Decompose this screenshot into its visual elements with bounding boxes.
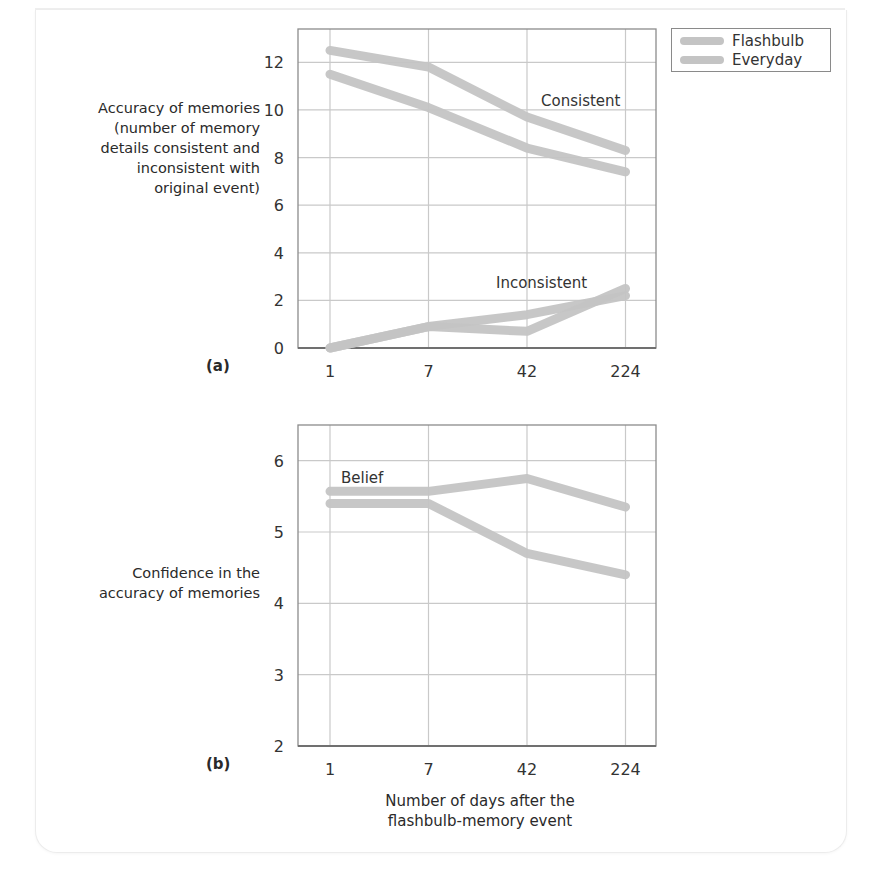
x-axis-label: Number of days after the flashbulb-memor…	[330, 791, 630, 831]
chart-b-y-tick-label: 5	[274, 523, 284, 542]
chart-a-x-tick-label: 7	[423, 362, 433, 381]
chart-a-y-axis-label-line-2: (number of memory	[40, 118, 260, 138]
chart-a-y-axis-label-line-1: Accuracy of memories	[40, 98, 260, 118]
legend-label-flashbulb: Flashbulb	[732, 32, 804, 50]
legend-label-everyday: Everyday	[732, 51, 802, 69]
chart-a-y-axis-label-line-4: inconsistent with	[40, 158, 260, 178]
chart-b-x-tick-label: 224	[610, 760, 641, 779]
legend-swatch-everyday	[680, 56, 724, 64]
annotation-belief: Belief	[341, 469, 384, 487]
x-axis-label-line-1: Number of days after the	[330, 791, 630, 811]
chart-b-x-tick-label: 1	[325, 760, 335, 779]
legend-swatch-flashbulb	[680, 37, 724, 45]
chart-b-series-line-2	[330, 503, 626, 574]
chart-a-y-tick-label: 8	[274, 149, 284, 168]
chart-b-y-axis-label: Confidence in theaccuracy of memories	[40, 563, 260, 603]
chart-a-x-tick-label: 1	[325, 362, 335, 381]
chart-b-x-tick-label: 42	[517, 760, 537, 779]
legend: Flashbulb Everyday	[671, 28, 831, 72]
annotation-consistent: Consistent	[541, 92, 621, 110]
chart-b-y-tick-label: 2	[274, 737, 284, 756]
annotation-inconsistent: Inconsistent	[496, 274, 587, 292]
chart-a-y-tick-label: 10	[264, 101, 284, 120]
chart-a-y-tick-label: 12	[264, 53, 284, 72]
chart-a-y-tick-label: 2	[274, 291, 284, 310]
legend-item-everyday: Everyday	[680, 50, 802, 70]
x-axis-label-line-2: flashbulb-memory event	[330, 811, 630, 831]
panel-b-tag: (b)	[206, 755, 230, 773]
chart-a-x-tick-label: 224	[610, 362, 641, 381]
legend-item-flashbulb: Flashbulb	[680, 31, 804, 51]
chart-b-y-tick-label: 6	[274, 452, 284, 471]
chart-b-x-tick-label: 7	[423, 760, 433, 779]
chart-a-y-tick-label: 4	[274, 244, 284, 263]
chart-b-y-tick-label: 3	[274, 666, 284, 685]
chart-a-y-tick-label: 0	[274, 339, 284, 358]
chart-b-y-tick-label: 4	[274, 594, 284, 613]
panel-a-tag: (a)	[206, 357, 230, 375]
chart-a-y-axis-label-line-3: details consistent and	[40, 138, 260, 158]
chart-a-x-tick-label: 42	[517, 362, 537, 381]
chart-a-y-tick-label: 6	[274, 196, 284, 215]
chart-b-y-axis-label-line-2: accuracy of memories	[40, 583, 260, 603]
chart-a-y-axis-label: Accuracy of memories(number of memorydet…	[40, 98, 260, 198]
chart-b-y-axis-label-line-1: Confidence in the	[40, 563, 260, 583]
chart-a-y-axis-label-line-5: original event)	[40, 178, 260, 198]
